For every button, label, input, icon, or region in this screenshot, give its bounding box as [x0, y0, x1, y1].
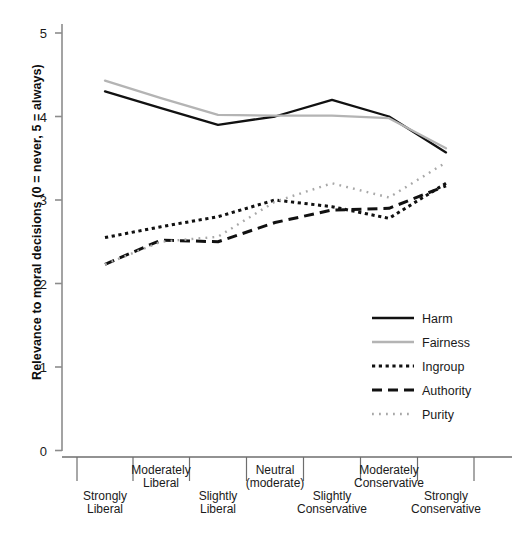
chart-figure: Relevance to moral decisions (0 = never,… — [0, 0, 518, 544]
x-category-label-3: Neutral — [256, 463, 295, 477]
x-axis-category-labels: StronglyLiberalModeratelyLiberalSlightly… — [83, 463, 481, 516]
legend: HarmFairnessIngroupAuthorityPurity — [372, 312, 472, 422]
x-category-label-4: Conservative — [297, 502, 367, 516]
y-tick-label-2: 2 — [40, 277, 47, 292]
legend-label-purity: Purity — [422, 408, 455, 422]
x-category-label-2: Slightly — [199, 489, 238, 503]
line-chart-canvas: 012345 StronglyLiberalModeratelyLiberalS… — [0, 0, 518, 544]
y-tick-label-1: 1 — [40, 360, 47, 375]
x-category-label-4: Slightly — [313, 489, 352, 503]
series-line-ingroup — [105, 183, 446, 237]
x-category-label-6: Conservative — [411, 502, 481, 516]
legend-label-harm: Harm — [422, 312, 453, 326]
x-category-label-0: Strongly — [83, 489, 127, 503]
y-tick-label-4: 4 — [40, 110, 47, 125]
x-category-label-5: Conservative — [354, 476, 424, 490]
y-tick-label-5: 5 — [40, 26, 47, 41]
x-category-label-5: Moderately — [359, 463, 418, 477]
y-tick-labels: 012345 — [40, 26, 47, 459]
y-tick-label-3: 3 — [40, 193, 47, 208]
series-group — [105, 81, 446, 265]
series-line-authority — [105, 186, 446, 264]
x-category-label-2: Liberal — [200, 502, 236, 516]
x-category-label-1: Liberal — [143, 476, 179, 490]
legend-label-authority: Authority — [422, 384, 472, 398]
x-category-label-0: Liberal — [87, 502, 123, 516]
legend-label-fairness: Fairness — [422, 336, 470, 350]
y-tick-label-0: 0 — [40, 444, 47, 459]
x-category-label-1: Moderately — [131, 463, 190, 477]
x-category-label-6: Strongly — [424, 489, 468, 503]
series-line-fairness — [105, 81, 446, 149]
y-axis-ticks — [55, 33, 62, 451]
series-line-purity — [105, 162, 446, 264]
legend-label-ingroup: Ingroup — [422, 360, 464, 374]
x-category-label-3: (moderate) — [246, 476, 305, 490]
